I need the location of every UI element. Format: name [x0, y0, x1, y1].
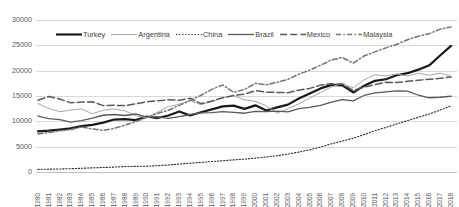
legend-item-turkey[interactable]: Turkey — [56, 30, 106, 39]
x-axis-label: 2017 — [437, 193, 443, 207]
x-axis-label: 1984 — [78, 193, 84, 207]
x-axis-label: 2014 — [404, 193, 410, 207]
x-axis-label: 1983 — [67, 193, 73, 207]
y-axis-label: 0 — [0, 168, 32, 175]
x-axis-label: 2002 — [274, 193, 280, 207]
x-axis-label: 1997 — [220, 193, 226, 207]
legend-swatch-icon — [56, 30, 82, 39]
series-line-brazil — [38, 91, 451, 122]
chart-legend: TurkeyArgentinaChinaBrazilMexicoMalaysia — [56, 28, 393, 41]
x-axis-label: 1996 — [209, 193, 215, 207]
legend-swatch-icon — [336, 30, 362, 39]
series-line-china — [38, 106, 451, 169]
x-axis-label: 1987 — [111, 193, 117, 207]
x-axis-label: 1991 — [154, 193, 160, 207]
x-axis-label: 1993 — [176, 193, 182, 207]
legend-label: China — [203, 30, 223, 39]
legend-item-brazil[interactable]: Brazil — [223, 30, 274, 39]
legend-item-malaysia[interactable]: Malaysia — [331, 30, 393, 39]
x-axis-label: 2007 — [328, 193, 334, 207]
legend-label: Mexico — [307, 30, 331, 39]
x-axis-label: 1989 — [133, 193, 139, 207]
legend-label: Turkey — [83, 30, 106, 39]
x-axis-label: 1994 — [187, 193, 193, 207]
x-axis: 1980198119821983198419851986198719881989… — [36, 173, 457, 207]
x-axis-label: 1990 — [143, 193, 149, 207]
line-chart: 300002500020000150001000050000 TurkeyArg… — [0, 0, 459, 207]
x-axis-label: 1988 — [122, 193, 128, 207]
y-axis-label: 25000 — [0, 41, 32, 48]
series-line-turkey — [38, 46, 451, 132]
x-axis-label: 2000 — [252, 193, 258, 207]
x-axis-label: 2011 — [372, 193, 378, 207]
x-axis-label: 1985 — [89, 193, 95, 207]
legend-label: Brazil — [255, 30, 274, 39]
x-axis-label: 2004 — [296, 193, 302, 207]
x-axis-label: 2005 — [307, 193, 313, 207]
x-axis-label: 2009 — [350, 193, 356, 207]
x-axis-label: 2012 — [383, 193, 389, 207]
series-line-malaysia — [38, 27, 451, 134]
series-layer — [36, 20, 457, 172]
x-axis-label: 2001 — [263, 193, 269, 207]
x-axis-label: 1998 — [230, 193, 236, 207]
x-axis-label: 2013 — [393, 193, 399, 207]
legend-swatch-icon — [280, 30, 306, 39]
x-axis-label: 2010 — [361, 193, 367, 207]
legend-label: Argentina — [138, 30, 171, 39]
x-axis-label: 1986 — [100, 193, 106, 207]
legend-item-mexico[interactable]: Mexico — [275, 30, 331, 39]
legend-swatch-icon — [228, 30, 254, 39]
legend-label: Malaysia — [363, 30, 393, 39]
x-axis-label: 1982 — [57, 193, 63, 207]
x-axis-label: 1980 — [35, 193, 41, 207]
x-axis-label: 2018 — [448, 193, 454, 207]
legend-item-china[interactable]: China — [171, 30, 223, 39]
x-axis-label: 1992 — [165, 193, 171, 207]
y-axis-label: 10000 — [0, 117, 32, 124]
x-axis-label: 2008 — [339, 193, 345, 207]
y-axis-label: 20000 — [0, 67, 32, 74]
y-axis-label: 5000 — [0, 143, 32, 150]
x-axis-label: 2015 — [415, 193, 421, 207]
legend-item-argentina[interactable]: Argentina — [106, 30, 171, 39]
x-axis-label: 2006 — [317, 193, 323, 207]
y-axis-label: 30000 — [0, 16, 32, 23]
legend-swatch-icon — [111, 30, 137, 39]
series-line-argentina — [38, 73, 451, 118]
x-axis-label: 2003 — [285, 193, 291, 207]
x-axis-label: 1981 — [46, 193, 52, 207]
x-axis-label: 1995 — [198, 193, 204, 207]
x-axis-label: 2016 — [426, 193, 432, 207]
x-axis-label: 1999 — [241, 193, 247, 207]
legend-swatch-icon — [176, 30, 202, 39]
plot-area — [36, 20, 457, 172]
y-axis-label: 15000 — [0, 92, 32, 99]
